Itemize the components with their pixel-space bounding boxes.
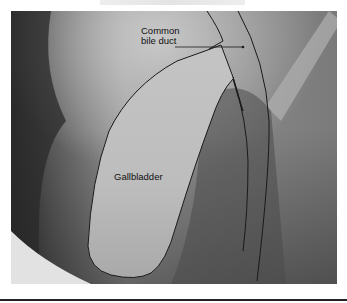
gallbladder-label: Gallbladder <box>114 172 163 182</box>
radiograph-figure <box>11 11 337 284</box>
common-bile-duct-label: Common bile duct <box>141 26 180 46</box>
radiograph-image <box>11 11 337 284</box>
bottom-divider <box>0 299 347 301</box>
common-bile-duct-label-line2: bile duct <box>141 36 180 46</box>
figure-caption-faint <box>100 0 245 5</box>
